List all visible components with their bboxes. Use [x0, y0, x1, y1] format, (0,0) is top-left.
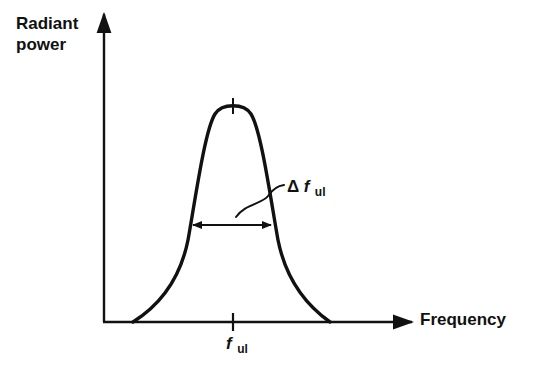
center-frequency-label: f ul [226, 334, 248, 356]
line-profile-curve [133, 106, 330, 322]
y-axis-label-line2: power [16, 35, 66, 54]
y-axis-label-line1: Radiant [16, 14, 79, 33]
linewidth-label: Δ f ul [287, 177, 325, 199]
y-axis-label: Radiant power [16, 14, 83, 54]
center-frequency-symbol: f [226, 334, 234, 353]
linewidth-delta: Δ [287, 177, 299, 196]
x-axis-label: Frequency [420, 310, 507, 329]
line-profile-diagram: Radiant power Frequency f ul Δ f ul [0, 0, 535, 370]
linewidth-leader-line [236, 185, 284, 217]
linewidth-subscript: ul [315, 185, 326, 199]
center-frequency-subscript: ul [237, 342, 248, 356]
linewidth-symbol: f [304, 177, 312, 196]
